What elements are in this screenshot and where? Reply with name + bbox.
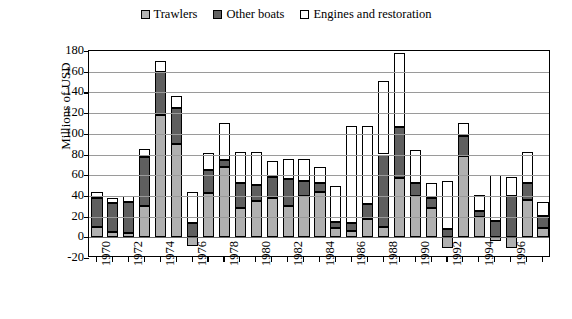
y-tick-60 xyxy=(84,175,89,176)
bar-segment-other-1986 xyxy=(346,223,357,231)
gridline-80 xyxy=(89,155,549,156)
bar-segment-engines-1996 xyxy=(506,177,517,196)
bar-segment-other-1982 xyxy=(283,179,294,206)
y-tick-160 xyxy=(84,72,89,73)
gridline-120 xyxy=(89,113,549,114)
bar-segment-engines-1975 xyxy=(171,96,182,108)
gridline-40 xyxy=(89,196,549,197)
bar-segment-trawlers-1980 xyxy=(251,201,262,237)
bar-segment-engines-1982 xyxy=(283,159,294,180)
chart-figure: Trawlers Other boats Engines and restora… xyxy=(0,0,572,319)
y-tick-0 xyxy=(84,237,89,238)
x-axis-label-1988: 1988 xyxy=(387,241,400,266)
x-axis-label-1984: 1984 xyxy=(324,241,337,266)
gridline-0 xyxy=(89,237,549,238)
bar-segment-engines-1987 xyxy=(362,126,373,205)
legend-swatch-trawlers-icon xyxy=(141,10,150,19)
bar-segment-trawlers-1978 xyxy=(219,167,230,237)
x-axis-label-1982: 1982 xyxy=(292,241,305,266)
legend-label-other-boats: Other boats xyxy=(226,8,284,21)
y-axis-label-100: 100 xyxy=(65,127,84,140)
bar-segment-engines-1994 xyxy=(474,195,485,212)
bar-segment-other-1985 xyxy=(330,222,341,228)
bar-segment-trawlers-1979 xyxy=(235,208,246,237)
bar-segment-trawlers-1997 xyxy=(522,200,533,237)
bar-segment-trawlers-1985 xyxy=(330,228,341,237)
x-axis-label-1970: 1970 xyxy=(100,241,113,266)
bar-segment-trawlers-1984 xyxy=(314,192,325,238)
bar-segment-trawlers-1973 xyxy=(139,206,150,237)
bar-segment-trawlers-1981 xyxy=(267,198,278,237)
y-axis-label-140: 140 xyxy=(65,85,84,98)
legend-item-other-boats: Other boats xyxy=(213,8,284,21)
bar-segment-engines-1986 xyxy=(346,126,357,223)
bar-segment-other-1997 xyxy=(522,183,533,200)
plot-frame xyxy=(88,50,550,257)
bar-segment-trawlers-1975 xyxy=(171,144,182,237)
chart-legend: Trawlers Other boats Engines and restora… xyxy=(0,8,572,21)
bar-segment-other-1974 xyxy=(155,72,166,115)
bar-segment-other-1984 xyxy=(314,183,325,191)
bar-segment-trawlers-1998 xyxy=(537,228,548,237)
legend-label-engines: Engines and restoration xyxy=(313,8,431,21)
legend-swatch-other-boats-icon xyxy=(213,10,222,19)
bar-segment-engines-1974 xyxy=(155,61,166,71)
y-axis-label-180: 180 xyxy=(65,44,84,57)
y-axis-label-0: 0 xyxy=(78,230,84,243)
bar-segment-engines-1980 xyxy=(251,152,262,184)
gridline-60 xyxy=(89,175,549,176)
bar-segment-trawlers-1994 xyxy=(474,217,485,238)
y-axis-label-160: 160 xyxy=(65,64,84,77)
bar-segment-other-1973 xyxy=(139,157,150,207)
x-axis-label-1990: 1990 xyxy=(419,241,432,266)
bar-segment-other-1993 xyxy=(458,136,469,156)
plot-area xyxy=(88,50,550,257)
legend-label-trawlers: Trawlers xyxy=(154,8,198,21)
y-axis-labels: 180160140120100806040200-20 xyxy=(38,50,84,257)
x-axis-labels: 1970197219741976197819801982198419861988… xyxy=(88,262,550,314)
x-axis-label-1976: 1976 xyxy=(196,241,209,266)
bar-segment-other-1976 xyxy=(187,223,198,237)
legend-item-engines: Engines and restoration xyxy=(300,8,431,21)
bar-segment-trawlers-1988 xyxy=(378,227,389,237)
x-axis-label-1986: 1986 xyxy=(355,241,368,266)
bar-segment-trawlers-1970 xyxy=(91,227,102,237)
bar-segment-other-1971 xyxy=(107,203,118,232)
y-axis-label-40: 40 xyxy=(72,189,85,202)
bar-segment-other-1990 xyxy=(410,183,421,195)
bar-segment-other-1981 xyxy=(267,177,278,198)
bar-segment-engines-1992 xyxy=(442,181,453,229)
y-axis-label-20: 20 xyxy=(72,209,85,222)
bar-segment-trawlers-1982 xyxy=(283,206,294,237)
y-tick-180 xyxy=(84,51,89,52)
bar-segment-trawlers-1977 xyxy=(203,193,214,238)
legend-item-trawlers: Trawlers xyxy=(141,8,198,21)
x-axis-label-1972: 1972 xyxy=(132,241,145,266)
x-axis-label-1980: 1980 xyxy=(260,241,273,266)
bar-segment-other-1972 xyxy=(123,202,134,233)
y-tick-120 xyxy=(84,113,89,114)
y-tick-20 xyxy=(84,217,89,218)
bar-segment-other-1978 xyxy=(219,160,230,167)
y-axis-label-80: 80 xyxy=(72,147,85,160)
gridline-100 xyxy=(89,134,549,135)
y-axis-label-120: 120 xyxy=(65,106,84,119)
y-tick-40 xyxy=(84,196,89,197)
x-axis-label-1996: 1996 xyxy=(515,241,528,266)
x-axis-label-1994: 1994 xyxy=(483,241,496,266)
gridline-160 xyxy=(89,72,549,73)
legend-swatch-engines-icon xyxy=(300,10,309,19)
bar-segment-other-1995 xyxy=(490,221,501,238)
gridline-140 xyxy=(89,92,549,93)
bar-segment-engines-1979 xyxy=(235,152,246,183)
bar-segment-engines-1983 xyxy=(298,159,309,182)
bar-segment-engines-1970 xyxy=(91,192,102,198)
y-tick-100 xyxy=(84,134,89,135)
y-tick-80 xyxy=(84,155,89,156)
bar-segment-engines-1977 xyxy=(203,153,214,170)
bar-segment-engines-1971 xyxy=(107,198,118,203)
bar-segment-engines-1995 xyxy=(490,175,501,221)
bar-segment-other-1980 xyxy=(251,185,262,202)
bar-segment-engines-1989 xyxy=(394,53,405,126)
bar-segment-other-1970 xyxy=(91,198,102,227)
